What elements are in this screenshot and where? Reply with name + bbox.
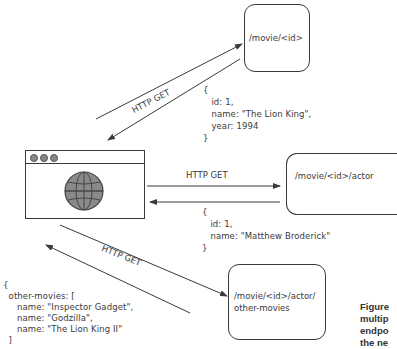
endpoint-label-actor: /movie/<id>/actor bbox=[295, 170, 374, 182]
endpoint-box-other-movies: /movie/<id>/actor/ other-movies bbox=[228, 264, 326, 340]
endpoint-label-movie: /movie/<id> bbox=[249, 32, 303, 44]
browser-title-bar bbox=[26, 151, 144, 164]
window-dot-icon bbox=[30, 154, 38, 162]
figure-caption: Figure multip endpo the ne bbox=[360, 301, 389, 349]
response-actor-json: { id: 1, name: "Matthew Broderick" } bbox=[202, 206, 330, 254]
endpoint-box-movie: /movie/<id> bbox=[244, 4, 310, 72]
window-dot-icon bbox=[40, 154, 48, 162]
globe-icon bbox=[63, 170, 105, 212]
endpoint-label-other-movies: /movie/<id>/actor/ other-movies bbox=[234, 290, 315, 314]
http-get-label-actor: HTTP GET bbox=[186, 170, 228, 180]
response-movie-json: { id: 1, name: "The Lion King", year: 19… bbox=[203, 84, 311, 144]
window-dot-icon bbox=[50, 154, 58, 162]
response-other-movies-json: { other-movies: [ name: "Inspector Gadge… bbox=[3, 280, 133, 346]
client-browser-window bbox=[25, 150, 145, 219]
